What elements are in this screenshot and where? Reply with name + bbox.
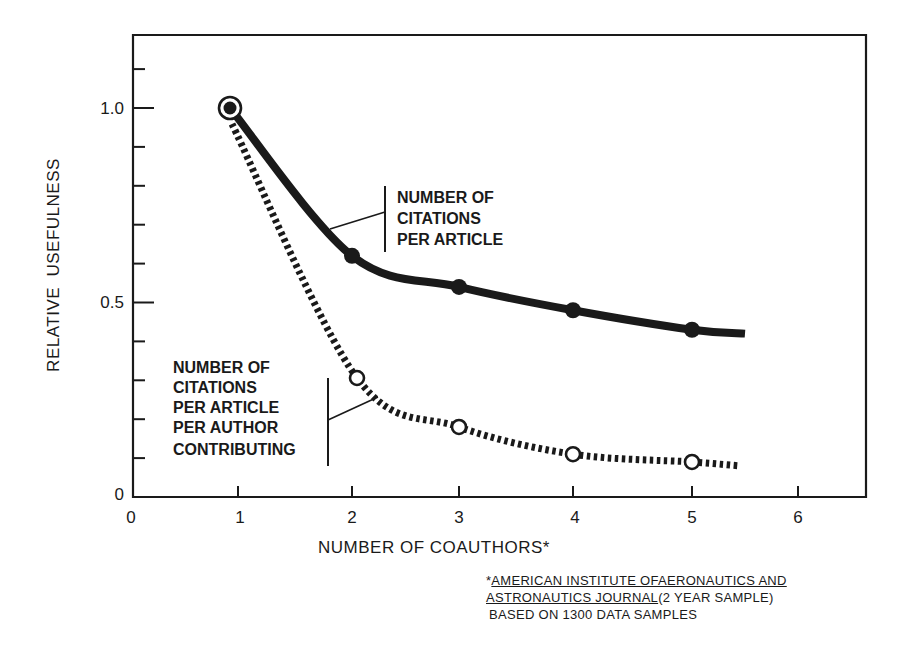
y-tick-label-0.5: 0.5: [100, 293, 124, 312]
source-footnote: *AMERICAN INSTITUTE OFAERONAUTICS AND AS…: [486, 572, 787, 623]
marker-open: [452, 420, 466, 434]
x-tick-label-1: 1: [235, 508, 244, 527]
footnote-source-part-2: ASTRONAUTICS JOURNAL: [486, 590, 658, 605]
x-tick-label-2: 2: [347, 508, 356, 527]
series-line-citations-per-article: [230, 108, 745, 334]
series-label-dashed-line-4: PER AUTHOR: [173, 419, 279, 436]
data-point-markers: [219, 97, 700, 469]
footnote-line-2: ASTRONAUTICS JOURNAL(2 YEAR SAMPLE): [486, 589, 787, 606]
series-label-solid-line-1: NUMBER OF: [397, 189, 494, 206]
marker-filled: [684, 322, 700, 338]
series-label-solid-line-3: PER ARTICLE: [397, 231, 503, 248]
y-axis-ticks: [133, 69, 154, 458]
series-label-dashed-line-3: PER ARTICLE: [173, 399, 279, 416]
y-tick-label-0: 0: [115, 485, 124, 504]
marker-filled: [344, 248, 360, 264]
marker-filled: [565, 302, 581, 318]
footnote-line-3: BASED ON 1300 DATA SAMPLES: [486, 606, 787, 623]
footnote-line-1: *AMERICAN INSTITUTE OFAERONAUTICS AND: [486, 572, 787, 589]
annotation-leader-solid: [330, 212, 385, 229]
annotation-leader-dashed: [328, 397, 378, 420]
x-tick-label-0: 0: [126, 508, 135, 527]
y-tick-label-1.0: 1.0: [100, 99, 124, 118]
marker-filled: [451, 279, 467, 295]
x-tick-label-6: 6: [793, 508, 802, 527]
x-axis-ticks: [238, 486, 798, 497]
x-tick-label-5: 5: [687, 508, 696, 527]
series-label-dashed-line-1: NUMBER OF: [173, 359, 270, 376]
marker-open: [350, 371, 364, 385]
marker-open: [685, 455, 699, 469]
marker-open: [566, 447, 580, 461]
x-tick-label-3: 3: [454, 508, 463, 527]
footnote-source-part-1: AMERICAN INSTITUTE OFAERONAUTICS AND: [491, 573, 786, 588]
series-label-solid-line-2: CITATIONS: [397, 210, 481, 227]
series-label-dashed-line-2: CITATIONS: [173, 379, 257, 396]
line-chart: 1.0 0.5 0 0 1 2 3 4 5 6 NUMBER OF COAUTH…: [0, 0, 904, 650]
x-axis-title: NUMBER OF COAUTHORS*: [318, 538, 550, 557]
series-label-dashed-line-5: CONTRIBUTING: [173, 441, 296, 458]
y-axis-title: RELATIVE USEFULNESS: [44, 158, 63, 372]
marker-dot-x1: [224, 102, 237, 115]
footnote-sample-period: (2 YEAR SAMPLE): [658, 590, 774, 605]
x-tick-label-4: 4: [570, 508, 579, 527]
